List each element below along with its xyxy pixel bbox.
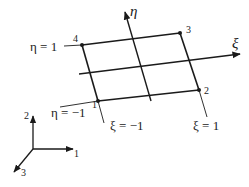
node-2 xyxy=(197,88,201,92)
xi-axis-label: ξ xyxy=(232,35,239,51)
eta-axis xyxy=(125,12,151,101)
xi-axis xyxy=(79,54,240,74)
eta-pos-label: η = 1 xyxy=(30,39,57,54)
node-label-3: 3 xyxy=(186,24,191,35)
eta-neg-label: η = −1 xyxy=(51,105,85,120)
global-axis-1-label: 1 xyxy=(74,148,79,159)
node-3 xyxy=(178,31,182,35)
xi-pos-label: ξ = 1 xyxy=(193,118,219,133)
global-axes: 2 1 3 xyxy=(14,110,79,178)
global-axis-3-label: 3 xyxy=(21,167,26,178)
xi-neg-leader xyxy=(98,101,104,123)
node-label-4: 4 xyxy=(73,33,78,44)
eta-pos-leader xyxy=(64,45,82,46)
global-axis-2-label: 2 xyxy=(24,110,29,121)
xi-neg-label: ξ = −1 xyxy=(110,118,143,133)
node-label-1: 1 xyxy=(92,99,97,110)
eta-axis-label: η xyxy=(130,3,137,19)
node-label-2: 2 xyxy=(204,85,209,96)
element-diagram: 1 2 3 4 η ξ η = 1 η = −1 ξ = −1 ξ = 1 2 … xyxy=(0,0,249,187)
node-4 xyxy=(80,43,84,47)
